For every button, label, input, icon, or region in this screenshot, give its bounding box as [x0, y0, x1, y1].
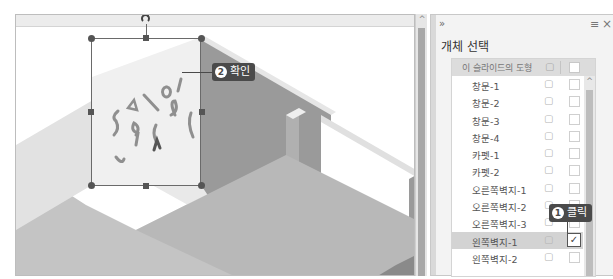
lock-icon[interactable]: ▢ — [544, 147, 553, 158]
visibility-checkbox[interactable] — [569, 79, 580, 90]
item-name: 창문-4 — [472, 131, 499, 145]
lock-icon[interactable]: ▢ — [544, 113, 553, 124]
list-item[interactable]: 카펫-2▢ — [452, 162, 583, 179]
callout-confirm: 2 확인 — [212, 63, 255, 81]
header-divider — [560, 61, 561, 74]
resize-handle-top-left[interactable] — [88, 35, 95, 42]
lock-icon[interactable]: ▢ — [544, 78, 553, 89]
visibility-checkbox[interactable] — [569, 131, 580, 142]
callout-label: 클릭 — [567, 204, 587, 222]
shape-list-header: 이 슬라이드의 도형 ▢ — [452, 59, 595, 76]
list-item[interactable]: 창문-3▢ — [452, 111, 583, 128]
lock-all-icon[interactable]: ▢ — [545, 61, 554, 72]
resize-handle-bottom-right[interactable] — [198, 182, 205, 189]
lock-icon[interactable]: ▢ — [544, 182, 553, 193]
item-name: 오른쪽벽지-2 — [472, 200, 526, 214]
visibility-checkbox[interactable] — [569, 96, 580, 107]
pane-header: » ≡ × — [431, 15, 613, 35]
scroll-up-icon[interactable]: ^ — [584, 77, 595, 86]
visibility-checkbox[interactable] — [569, 114, 580, 125]
lock-icon[interactable]: ▢ — [544, 251, 553, 262]
check-all-checkbox[interactable] — [569, 62, 580, 73]
callout-number: 1 — [552, 207, 564, 219]
pane-title: 개체 선택 — [441, 37, 489, 54]
callout-number: 2 — [215, 66, 227, 78]
list-item-selected[interactable]: 왼쪽벽지-1▢✓ — [452, 232, 583, 249]
list-item[interactable]: 창문-2▢ — [452, 93, 583, 110]
lock-icon[interactable]: ▢ — [544, 164, 553, 175]
visibility-checkbox[interactable] — [569, 165, 580, 176]
list-item[interactable]: 오른쪽벽지-1▢ — [452, 180, 583, 197]
canvas-vertical-scrollbar[interactable]: ^ — [415, 14, 427, 276]
shape-list: 이 슬라이드의 도형 ▢ 창문-1▢ 창문-2▢ 창문-3▢ 창문-4▢ 카펫-… — [451, 58, 596, 277]
visibility-checkbox-checked[interactable]: ✓ — [567, 233, 581, 247]
resize-handle-right[interactable] — [199, 109, 205, 115]
item-name: 왼쪽벽지-1 — [472, 235, 517, 249]
scroll-up-icon[interactable]: ^ — [416, 14, 428, 26]
close-icon[interactable]: × — [602, 17, 612, 31]
item-name: 창문-2 — [472, 96, 499, 110]
list-item[interactable]: 왼쪽벽지-2▢ — [452, 249, 583, 266]
item-name: 창문-3 — [472, 114, 499, 128]
callout-confirm-leader — [182, 72, 212, 73]
item-name: 창문-1 — [472, 79, 499, 93]
item-name: 왼쪽벽지-2 — [472, 252, 517, 266]
selection-frame[interactable] — [91, 38, 201, 186]
list-item[interactable]: 창문-4▢ — [452, 128, 583, 145]
list-item[interactable]: 창문-1▢ — [452, 76, 583, 93]
lock-icon[interactable]: ▢ — [544, 130, 553, 141]
resize-handle-left[interactable] — [88, 109, 94, 115]
item-name: 카펫-2 — [472, 165, 499, 179]
callout-label: 확인 — [230, 63, 250, 81]
selection-pane: » ≡ × 개체 선택 이 슬라이드의 도형 ▢ 창문-1▢ 창문-2▢ 창문-… — [430, 14, 613, 276]
list-item[interactable]: 카펫-1▢ — [452, 145, 583, 162]
callout-click-leader — [567, 222, 568, 233]
callout-click: 1 클릭 — [549, 204, 592, 222]
expand-pane-icon[interactable]: » — [439, 18, 445, 29]
scrollbar-thumb[interactable] — [418, 28, 425, 276]
shape-rows: 창문-1▢ 창문-2▢ 창문-3▢ 창문-4▢ 카펫-1▢ 카펫-2▢ 오른쪽벽… — [452, 76, 583, 266]
resize-handle-top-right[interactable] — [198, 35, 205, 42]
pane-edge — [431, 15, 436, 275]
resize-handle-top[interactable] — [143, 35, 149, 41]
resize-handle-bottom[interactable] — [143, 183, 149, 189]
list-scrollbar-thumb[interactable] — [586, 90, 593, 276]
list-scrollbar[interactable]: ^ — [584, 76, 595, 276]
rotate-handle-icon[interactable] — [141, 14, 150, 23]
item-name: 오른쪽벽지-1 — [472, 183, 526, 197]
pane-menu-icon[interactable]: ≡ — [590, 18, 599, 31]
resize-handle-bottom-left[interactable] — [88, 182, 95, 189]
lock-icon[interactable]: ▢ — [544, 95, 553, 106]
item-name: 오른쪽벽지-3 — [472, 217, 526, 231]
visibility-checkbox[interactable] — [569, 183, 580, 194]
visibility-checkbox[interactable] — [569, 252, 580, 263]
isometric-room-illustration — [16, 15, 415, 276]
list-header-label: 이 슬라이드의 도형 — [462, 61, 532, 74]
item-name: 카펫-1 — [472, 148, 499, 162]
slide-canvas[interactable]: 2 확인 — [15, 14, 415, 276]
visibility-checkbox[interactable] — [569, 148, 580, 159]
lock-icon[interactable]: ▢ — [544, 234, 553, 245]
